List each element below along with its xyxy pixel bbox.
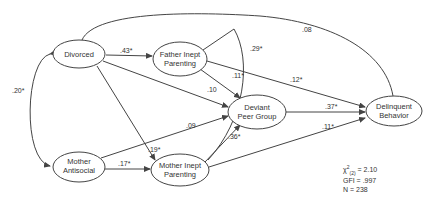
path-divorced-father [106, 55, 152, 56]
coef-deviant-delinquent: .37* [325, 103, 338, 110]
label-mother-inept-2: Parenting [164, 170, 196, 179]
path-father-delinquent [207, 61, 365, 107]
path-mother-antisocial-deviant [101, 116, 228, 158]
label-divorced: Divorced [64, 50, 94, 59]
path-divorced-mother-inept [97, 66, 155, 160]
corr-father-mother-inept [203, 29, 243, 160]
label-delinquent-2: Behavior [379, 111, 409, 120]
label-father-inept-1: Father Inept [160, 50, 201, 59]
path-mother-inept-delinquent [209, 118, 365, 167]
gfi-stat: GFI = .997 [343, 177, 377, 186]
label-mother-antisocial-1: Mother [67, 157, 91, 166]
n-stat: N = 238 [343, 186, 377, 195]
chi-square-stat: χ2(2) = 2.10 [343, 163, 377, 177]
label-delinquent-1: Delinquent [376, 102, 413, 111]
label-deviant-1: Deviant [244, 103, 270, 112]
coef-father-delinquent: .12* [290, 76, 303, 83]
coef-mother-antisocial-mother-inept: .17* [118, 160, 131, 167]
coef-father-deviant: .11* [232, 72, 244, 79]
coef-mother-inept-deviant: .36* [228, 133, 241, 140]
coef-mother-inept-delinquent: .11* [322, 123, 334, 130]
coef-divorced-delinquent: .08 [302, 26, 312, 33]
coef-divorced-deviant: .10 [207, 86, 217, 93]
path-mother-inept-deviant [205, 125, 240, 162]
coef-mother-antisocial-deviant: .09 [186, 122, 196, 129]
coef-divorced-mother-inept: .19* [148, 146, 161, 153]
fit-statistics: χ2(2) = 2.10 GFI = .997 N = 238 [343, 163, 377, 194]
label-mother-inept-1: Mother Inept [159, 161, 202, 170]
label-deviant-2: Peer Group [238, 112, 277, 121]
coef-divorced-father: .43* [120, 47, 133, 54]
chi-value: = 2.10 [356, 166, 378, 173]
coef-father-mother-inept: .29* [250, 45, 263, 52]
coef-divorced-mother-antisocial: .20* [12, 87, 25, 94]
label-father-inept-2: Parenting [164, 59, 196, 68]
path-divorced-delinquent [82, 14, 393, 96]
corr-divorced-mother-antisocial [30, 54, 50, 166]
label-mother-antisocial-2: Antisocial [63, 166, 95, 175]
